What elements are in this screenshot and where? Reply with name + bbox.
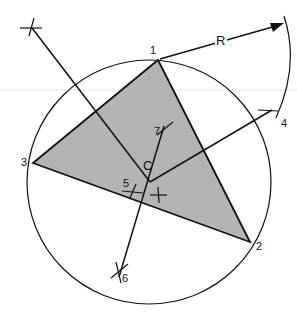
vertex-label-1: 1 bbox=[150, 44, 156, 56]
center-label: C bbox=[143, 158, 152, 173]
cross-mark bbox=[29, 18, 34, 36]
cross-mark-4 bbox=[258, 110, 278, 111]
mark-label-4: 4 bbox=[281, 117, 287, 129]
vertex-label-2: 2 bbox=[256, 240, 262, 252]
mark-label-5: 5 bbox=[123, 177, 129, 189]
triangle bbox=[33, 60, 250, 242]
arrow-head-icon bbox=[270, 23, 284, 32]
radius-arc bbox=[276, 16, 290, 118]
mark-label-7: 7 bbox=[154, 125, 160, 137]
circumcircle-diagram: R 1 2 3 C 4 5 6 7 bbox=[0, 0, 297, 315]
mark-label-6: 6 bbox=[122, 272, 128, 284]
radius-label: R bbox=[216, 33, 225, 48]
vertex-label-3: 3 bbox=[21, 156, 27, 168]
